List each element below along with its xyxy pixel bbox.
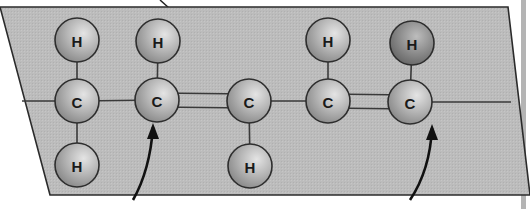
atom-label: C — [323, 94, 334, 111]
atom-label: H — [323, 33, 334, 50]
atom-label: C — [72, 94, 83, 111]
hydrogen-atom-h3: H — [306, 18, 350, 62]
atom-label: C — [244, 94, 255, 111]
atom-label: H — [72, 33, 83, 50]
hydrogen-atom-h5: H — [55, 143, 99, 187]
hydrogen-atom-h6: H — [228, 144, 272, 188]
atom-label: C — [152, 93, 163, 110]
atom-label: H — [407, 36, 418, 53]
carbon-atom-c1: C — [55, 79, 99, 123]
atom-label: C — [405, 95, 416, 112]
atom-label: H — [153, 34, 164, 51]
carbon-atom-c3: C — [227, 79, 271, 123]
hydrogen-atom-h4: H — [390, 21, 434, 65]
atom-label: H — [72, 158, 83, 175]
hydrogen-atom-h1: H — [55, 18, 99, 62]
carbon-atom-c2: C — [135, 78, 179, 122]
hydrogen-atom-h2: H — [136, 19, 180, 63]
carbon-atom-c5: C — [388, 80, 432, 124]
molecule-diagram: HHHHCCCCCHH — [0, 0, 530, 209]
atom-label: H — [245, 159, 256, 176]
carbon-atom-c4: C — [306, 79, 350, 123]
